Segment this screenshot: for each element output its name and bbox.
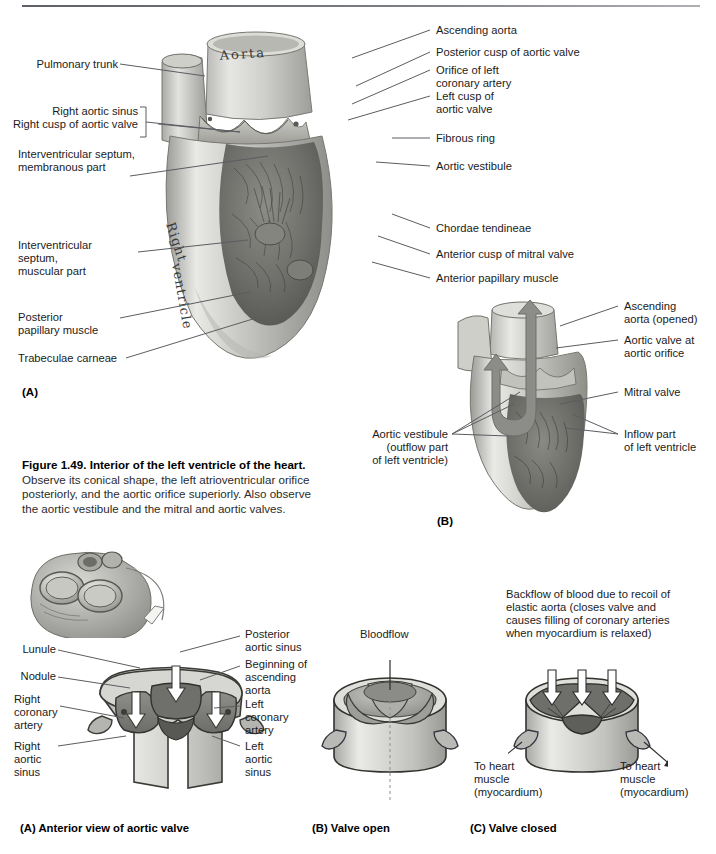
- label-to-heart-muscle-left-1: To heart: [474, 760, 514, 773]
- label-interventricular-septum-membranous-1: Interventricular septum,: [18, 148, 135, 161]
- label-orifice-left-coronary-1: Orifice of left: [436, 64, 499, 77]
- label-to-heart-muscle-right-1: To heart: [620, 760, 660, 773]
- label-to-heart-muscle-right-3: (myocardium): [620, 786, 688, 799]
- textbook-page: Aorta: [0, 0, 716, 854]
- label-anterior-cusp-mitral-valve: Anterior cusp of mitral valve: [436, 248, 574, 261]
- label-interventricular-septum-muscular-3: muscular part: [18, 265, 86, 278]
- label-anterior-papillary-muscle: Anterior papillary muscle: [436, 272, 559, 285]
- label-left-cusp-aortic-valve-2: aortic valve: [436, 103, 493, 116]
- label-pulmonary-trunk: Pulmonary trunk: [0, 58, 118, 71]
- label-right-aortic-sinus: Right aortic sinus: [0, 105, 138, 118]
- label-aortic-vestibule-b-1: Aortic vestibule: [300, 428, 448, 441]
- label-to-heart-muscle-right-2: muscle: [620, 773, 655, 786]
- label-backflow-note-4: when myocardium is relaxed): [506, 627, 652, 640]
- label-backflow-note-1: Backflow of blood due to recoil of: [506, 588, 670, 601]
- figure-caption-body: Observe its conical shape, the left atri…: [22, 473, 311, 515]
- label-right-cusp-aortic-valve: Right cusp of aortic valve: [0, 118, 138, 131]
- bottom-caption-a: (A) Anterior view of aortic valve: [20, 822, 189, 834]
- valves-superior-view-inset: [24, 548, 174, 638]
- label-posterior-papillary-muscle-1: Posterior: [18, 311, 63, 324]
- label-posterior-aortic-sinus-1: Posterior: [245, 628, 290, 641]
- label-inflow-part-1: Inflow part: [624, 428, 676, 441]
- figure-caption: Figure 1.49. Interior of the left ventri…: [22, 458, 312, 516]
- aortic-valve-anterior-view: [86, 660, 266, 800]
- label-beginning-ascending-aorta-3: aorta: [245, 684, 271, 697]
- label-posterior-cusp-aortic-valve: Posterior cusp of aortic valve: [436, 46, 580, 59]
- label-chordae-tendineae: Chordae tendineae: [436, 222, 531, 235]
- label-posterior-aortic-sinus-2: aortic sinus: [245, 641, 302, 654]
- label-ascending-aorta: Ascending aorta: [436, 24, 517, 37]
- label-ascending-aorta-opened-2: aorta (opened): [624, 313, 697, 326]
- bottom-caption-b: (B) Valve open: [312, 822, 390, 834]
- label-interventricular-septum-muscular-2: septum,: [18, 252, 58, 265]
- label-lunule: Lunule: [0, 643, 56, 656]
- label-left-aortic-sinus-2: aortic: [245, 753, 272, 766]
- label-left-cusp-aortic-valve-1: Left cusp of: [436, 90, 494, 103]
- heart-interior-illustration-a: Aorta: [150, 18, 410, 388]
- label-left-aortic-sinus-1: Left: [245, 740, 264, 753]
- label-beginning-ascending-aorta-1: Beginning of: [245, 658, 307, 671]
- label-interventricular-septum-membranous-2: membranous part: [18, 161, 106, 174]
- header-rule: [22, 5, 700, 7]
- label-posterior-papillary-muscle-2: papillary muscle: [18, 324, 98, 337]
- label-aortic-valve-at-orifice-1: Aortic valve at: [624, 334, 694, 347]
- label-right-coronary-artery-2: coronary: [14, 706, 58, 719]
- label-trabeculae-carneae: Trabeculae carneae: [18, 352, 117, 365]
- label-right-aortic-sinus-1: Right: [14, 740, 40, 753]
- label-beginning-ascending-aorta-2: ascending: [245, 671, 296, 684]
- label-right-coronary-artery-1: Right: [14, 693, 40, 706]
- label-bloodflow: Bloodflow: [360, 628, 409, 641]
- label-to-heart-muscle-left-3: (myocardium): [474, 786, 542, 799]
- figure-caption-title: Figure 1.49. Interior of the left ventri…: [22, 458, 305, 471]
- panel-label-b: (B): [437, 515, 453, 527]
- heart-flow-illustration-b: [440, 296, 630, 516]
- label-left-coronary-artery-2: coronary: [245, 711, 289, 724]
- label-left-coronary-artery-1: Left: [245, 698, 264, 711]
- label-interventricular-septum-muscular-1: Interventricular: [18, 239, 92, 252]
- label-inflow-part-2: of left ventricle: [624, 441, 696, 454]
- label-left-coronary-artery-3: artery: [245, 724, 274, 737]
- label-right-aortic-sinus-3: sinus: [14, 766, 40, 779]
- label-orifice-left-coronary-2: coronary artery: [436, 77, 511, 90]
- label-aortic-vestibule-b-2: (outflow part: [300, 441, 448, 454]
- label-aortic-vestibule-b-3: of left ventricle): [300, 454, 448, 467]
- label-backflow-note-2: elastic aorta (closes valve and: [506, 601, 656, 614]
- label-aortic-valve-at-orifice-2: aortic orifice: [624, 347, 684, 360]
- bottom-caption-c: (C) Valve closed: [470, 822, 557, 834]
- label-left-aortic-sinus-3: sinus: [245, 766, 271, 779]
- label-right-aortic-sinus-2: aortic: [14, 753, 41, 766]
- label-aortic-vestibule-a: Aortic vestibule: [436, 160, 512, 173]
- panel-label-a: (A): [22, 386, 38, 398]
- label-to-heart-muscle-left-2: muscle: [474, 773, 509, 786]
- label-nodule: Nodule: [0, 670, 56, 683]
- label-backflow-note-3: causes filling of coronary arteries: [506, 614, 670, 627]
- label-ascending-aorta-opened-1: Ascending: [624, 300, 676, 313]
- aortic-valve-open: [320, 660, 470, 800]
- label-fibrous-ring: Fibrous ring: [436, 132, 495, 145]
- label-right-coronary-artery-3: artery: [14, 719, 43, 732]
- label-mitral-valve: Mitral valve: [624, 386, 681, 399]
